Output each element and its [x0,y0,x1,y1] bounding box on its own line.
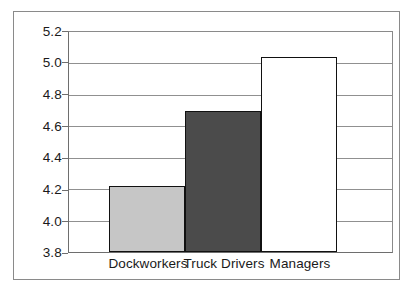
bar-chart-figure: 5.2 5.0 4.8 4.6 4.4 4.2 4.0 3.8 Dockwork… [0,0,414,292]
bar-truck-drivers[interactable] [185,111,261,252]
gridline-4-8 [69,95,392,96]
y-tick-label-5-2: 5.2 [16,24,62,39]
y-tick-label-4-8: 4.8 [16,87,62,102]
y-tick-label-4-0: 4.0 [16,214,62,229]
bar-managers[interactable] [261,57,337,252]
x-tick-label-managers: Managers [250,256,350,271]
y-tick-mark-3-8 [62,253,68,254]
y-tick-label-4-6: 4.6 [16,119,62,134]
y-tick-label-3-8: 3.8 [16,245,62,260]
y-tick-label-5-0: 5.0 [16,55,62,70]
bar-dockworkers[interactable] [109,186,185,252]
y-tick-label-4-4: 4.4 [16,150,62,165]
y-tick-label-4-2: 4.2 [16,182,62,197]
gridline-5-0 [69,63,392,64]
plot-area [68,31,393,253]
